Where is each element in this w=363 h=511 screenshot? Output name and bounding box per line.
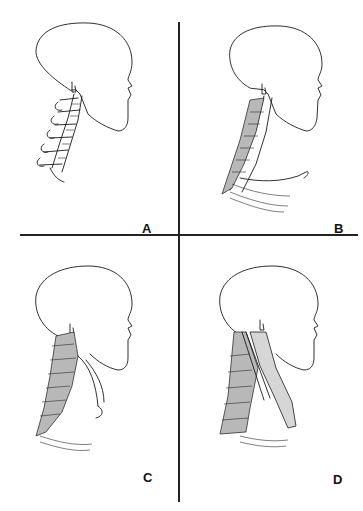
- panel-c: C: [0, 236, 178, 511]
- panel-b: B: [180, 0, 363, 234]
- anatomy-figure: A B C: [0, 0, 363, 511]
- panel-label-d: D: [333, 472, 342, 487]
- panel-label-a: A: [142, 221, 151, 236]
- panel-label-b: B: [334, 221, 343, 236]
- panel-a: A: [0, 0, 178, 234]
- skull-cervical-spine-illustration: [0, 0, 178, 234]
- skull-deep-muscles-illustration: [180, 0, 363, 234]
- panel-label-c: C: [143, 470, 152, 485]
- head-superficial-muscles-illustration: [180, 236, 363, 511]
- panel-d: D: [180, 236, 363, 511]
